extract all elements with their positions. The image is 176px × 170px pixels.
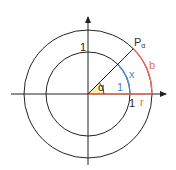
unit-circle-diagram: Pα b x α 1 r 1 1 [0, 0, 176, 170]
label-y-tick-1: 1 [80, 41, 86, 53]
label-r: r [140, 96, 144, 108]
ray-to-p [88, 49, 133, 94]
label-alpha: α [98, 81, 105, 93]
label-x-tick-1: 1 [129, 97, 135, 109]
label-b: b [149, 59, 155, 71]
label-p: Pα [134, 36, 145, 49]
label-inner-radius: 1 [117, 81, 123, 93]
outer-arc-b [133, 49, 152, 94]
label-x: x [129, 68, 135, 80]
